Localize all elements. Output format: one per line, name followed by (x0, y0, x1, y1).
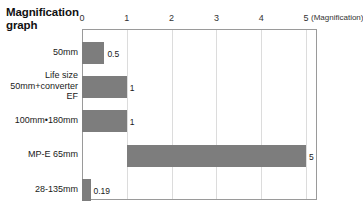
bar-value-label: 5 (309, 152, 314, 162)
bar-row: 1 (83, 76, 316, 98)
category-label: Life size 50mm+converter EF (0, 70, 78, 102)
magnification-bar-chart: Magnification graph 012345 (Magnificatio… (0, 0, 363, 209)
bar (82, 179, 91, 201)
plot-area: 0.51150.19 (82, 29, 317, 200)
x-tick-label-2: 2 (169, 13, 174, 23)
x-axis-unit-label: (Magnification) (311, 13, 363, 23)
bar-value-label: 1 (130, 83, 135, 93)
bar-value-label: 0.5 (107, 49, 119, 59)
bar (82, 42, 104, 64)
chart-title: Magnification graph (6, 6, 116, 31)
category-label: 100mm•180mm (0, 115, 78, 126)
x-tick-label-4: 4 (259, 13, 264, 23)
bar-value-label: 1 (130, 117, 135, 127)
bar (82, 110, 127, 132)
category-label: MP-E 65mm (0, 149, 78, 160)
bar-row: 0.19 (83, 179, 316, 201)
bar (127, 145, 306, 167)
bar-row: 5 (83, 145, 316, 167)
category-label: 28-135mm (0, 184, 78, 195)
x-tick-label-0: 0 (79, 13, 84, 23)
category-label: 50mm (0, 47, 78, 58)
x-tick-label-1: 1 (124, 13, 129, 23)
x-tick-label-5: 5 (303, 13, 308, 23)
bar-row: 0.5 (83, 42, 316, 64)
bar (82, 76, 127, 98)
bar-row: 1 (83, 110, 316, 132)
x-tick-label-3: 3 (214, 13, 219, 23)
bar-value-label: 0.19 (94, 186, 111, 196)
